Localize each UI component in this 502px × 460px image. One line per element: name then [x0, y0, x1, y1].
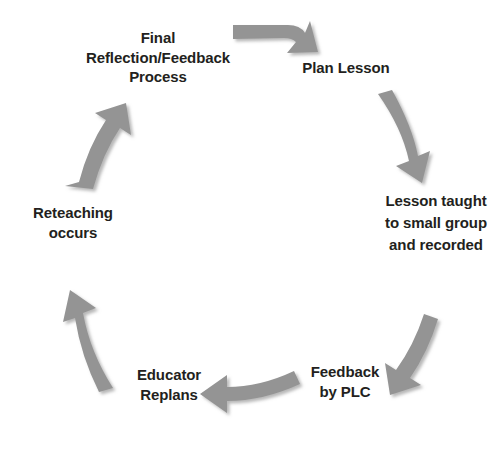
node-label-plan-lesson: Plan Lesson — [296, 58, 396, 78]
arrow-lower-left-icon — [63, 290, 113, 392]
node-label-reteaching: Reteaching occurs — [18, 203, 128, 244]
node-label-final-reflection: Final Reflection/Feedback Process — [78, 28, 238, 87]
arrow-upper-left-icon — [65, 103, 131, 189]
node-label-feedback-plc: Feedback by PLC — [302, 362, 388, 403]
node-label-lesson-taught: Lesson taught to small group and recorde… — [374, 190, 498, 255]
node-label-educator-replans: Educator Replans — [126, 365, 212, 406]
arrow-upper-right-icon — [378, 90, 430, 183]
arrow-bottom-icon — [200, 371, 300, 413]
cycle-diagram: Final Reflection/Feedback Process Plan L… — [0, 0, 502, 460]
arrow-top-icon — [233, 21, 318, 53]
arrow-lower-right-icon — [385, 314, 438, 395]
